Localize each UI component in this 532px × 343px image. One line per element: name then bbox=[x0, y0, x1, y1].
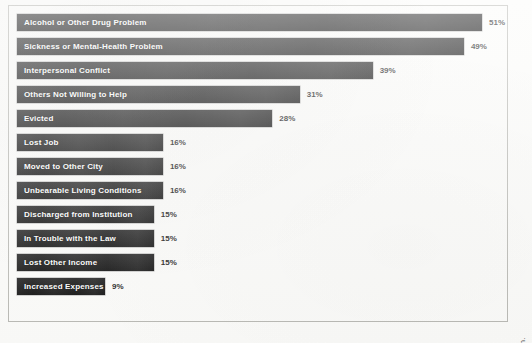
bar-value-label: 31% bbox=[307, 91, 323, 99]
bar-category-label: Sickness or Mental-Health Problem bbox=[24, 43, 163, 51]
bar-value-label: 39% bbox=[380, 67, 396, 75]
bar-category-label: Interpersonal Conflict bbox=[24, 67, 110, 75]
bar: Increased Expenses bbox=[17, 278, 105, 295]
source-note: Source: Center for Substance Abuse Resea… bbox=[520, 337, 528, 343]
bar-category-label: Increased Expenses bbox=[24, 283, 104, 291]
bar-value-label: 15% bbox=[161, 235, 177, 243]
bar-category-label: Moved to Other City bbox=[24, 163, 103, 171]
bar-row: Lost Other Income15% bbox=[17, 254, 177, 271]
bar-category-label: Lost Job bbox=[24, 139, 59, 147]
bar-row: Others Not Willing to Help31% bbox=[17, 86, 323, 103]
bar-row: Alcohol or Other Drug Problem51% bbox=[17, 14, 505, 31]
bar-row: Sickness or Mental-Health Problem49% bbox=[17, 38, 487, 55]
bar-row: In Trouble with the Law15% bbox=[17, 230, 177, 247]
bar-value-label: 28% bbox=[279, 115, 295, 123]
bar-chart-figure: Alcohol or Other Drug Problem51%Sickness… bbox=[0, 0, 532, 343]
bar-value-label: 51% bbox=[489, 19, 505, 27]
bar: Evicted bbox=[17, 110, 272, 127]
bar-category-label: Others Not Willing to Help bbox=[24, 91, 127, 99]
bar-category-label: Alcohol or Other Drug Problem bbox=[24, 19, 147, 27]
bar-row: Unbearable Living Conditions16% bbox=[17, 182, 186, 199]
bar-value-label: 16% bbox=[170, 187, 186, 195]
bar-row: Moved to Other City16% bbox=[17, 158, 186, 175]
bar-value-label: 9% bbox=[112, 283, 124, 291]
bar-category-label: Lost Other Income bbox=[24, 259, 97, 267]
bar: Others Not Willing to Help bbox=[17, 86, 300, 103]
bar: In Trouble with the Law bbox=[17, 230, 154, 247]
bar-row: Discharged from Institution15% bbox=[17, 206, 177, 223]
chart-plot-area: Alcohol or Other Drug Problem51%Sickness… bbox=[17, 14, 517, 314]
bar: Alcohol or Other Drug Problem bbox=[17, 14, 482, 31]
bar: Moved to Other City bbox=[17, 158, 163, 175]
bar: Unbearable Living Conditions bbox=[17, 182, 163, 199]
bar-category-label: Discharged from Institution bbox=[24, 211, 133, 219]
bar-value-label: 15% bbox=[161, 211, 177, 219]
bar-value-label: 49% bbox=[471, 43, 487, 51]
bar-category-label: Evicted bbox=[24, 115, 54, 123]
bar-row: Lost Job16% bbox=[17, 134, 186, 151]
bar: Discharged from Institution bbox=[17, 206, 154, 223]
bar: Sickness or Mental-Health Problem bbox=[17, 38, 464, 55]
bar: Interpersonal Conflict bbox=[17, 62, 373, 79]
bar-value-label: 16% bbox=[170, 163, 186, 171]
bar-category-label: Unbearable Living Conditions bbox=[24, 187, 142, 195]
bar: Lost Other Income bbox=[17, 254, 154, 271]
bar-value-label: 15% bbox=[161, 259, 177, 267]
bar-category-label: In Trouble with the Law bbox=[24, 235, 116, 243]
bar-row: Evicted28% bbox=[17, 110, 295, 127]
bar-value-label: 16% bbox=[170, 139, 186, 147]
bar-row: Increased Expenses9% bbox=[17, 278, 124, 295]
bar: Lost Job bbox=[17, 134, 163, 151]
source-note-container: Source: Center for Substance Abuse Resea… bbox=[516, 127, 530, 337]
bar-row: Interpersonal Conflict39% bbox=[17, 62, 396, 79]
